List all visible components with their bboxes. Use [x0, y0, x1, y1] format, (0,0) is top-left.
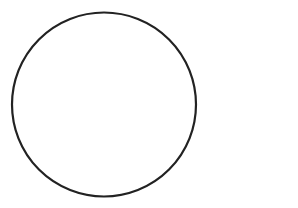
diagram-canvas	[0, 0, 298, 208]
circle-outline	[12, 13, 196, 197]
